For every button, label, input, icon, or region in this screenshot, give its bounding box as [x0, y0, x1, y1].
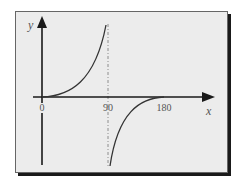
y-axis-label: y [27, 18, 34, 32]
tick-label-0: 0 [40, 102, 45, 113]
tick-label-90: 90 [103, 102, 113, 113]
tick-label-180: 180 [157, 102, 172, 113]
x-axis-arrow-icon [202, 92, 215, 102]
tan-graph: y x 0 90 180 [0, 0, 238, 184]
y-axis-arrow-icon [37, 16, 47, 28]
curve-branch-1 [42, 25, 106, 97]
x-axis-label: x [205, 104, 212, 118]
